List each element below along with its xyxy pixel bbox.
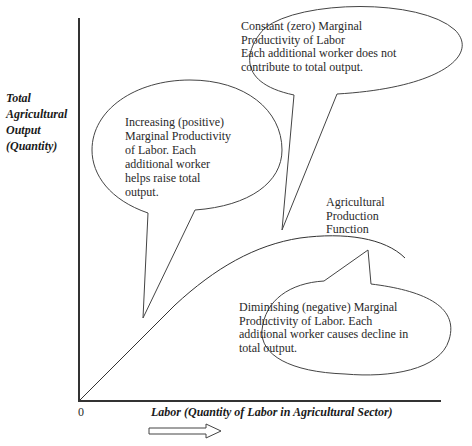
y-axis-label-line: Output: [6, 122, 67, 138]
callout-diminishing-text: Diminishing (negative) Marginal Producti…: [239, 301, 408, 355]
callout-line: total output.: [239, 342, 408, 356]
diagram-canvas: [0, 0, 472, 446]
callout-line: of Labor. Each: [125, 143, 231, 157]
callout-line: Each additional worker does not: [241, 47, 396, 61]
callout-line: Constant (zero) Marginal: [241, 20, 396, 34]
callout-line: additional worker causes decline in: [239, 328, 408, 342]
y-axis-label-line: (Quantity): [6, 138, 67, 154]
callout-line: Diminishing (negative) Marginal: [239, 301, 408, 315]
y-axis-label-line: Agricultural: [6, 106, 67, 122]
y-axis-label-line: Total: [6, 90, 67, 106]
curve-label-line: Agricultural: [326, 196, 385, 210]
y-axis-label: Total Agricultural Output (Quantity): [6, 90, 67, 154]
direction-arrow-icon: [149, 424, 221, 438]
callout-line: additional worker: [125, 157, 231, 171]
callout-line: Productivity of Labor: [241, 34, 396, 48]
callout-increasing-text: Increasing (positive) Marginal Productiv…: [125, 115, 231, 199]
callout-line: Productivity of Labor. Each: [239, 315, 408, 329]
callout-line: helps raise total: [125, 171, 231, 185]
callout-line: Increasing (positive): [125, 115, 231, 129]
callout-line: Marginal Productivity: [125, 129, 231, 143]
origin-label: 0: [78, 405, 84, 420]
curve-label: Agricultural Production Function: [326, 196, 385, 237]
curve-label-line: Production: [326, 210, 385, 224]
x-axis-label: Labor (Quantity of Labor in Agricultural…: [151, 405, 393, 420]
callout-line: output.: [125, 185, 231, 199]
callout-line: contribute to total output.: [241, 61, 396, 75]
callout-constant-text: Constant (zero) Marginal Productivity of…: [241, 20, 396, 74]
curve-label-line: Function: [326, 223, 385, 237]
